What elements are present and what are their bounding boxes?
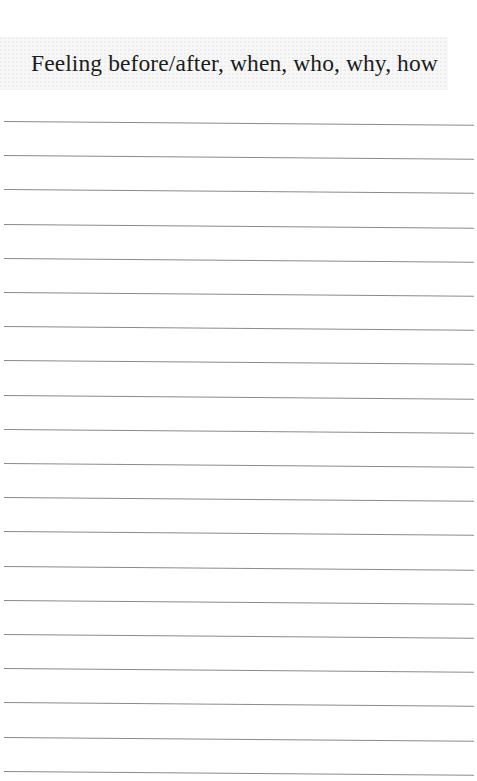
writing-line bbox=[4, 497, 474, 502]
writing-line bbox=[4, 258, 474, 263]
writing-line bbox=[4, 463, 474, 468]
writing-line bbox=[4, 429, 474, 434]
writing-line bbox=[4, 121, 474, 126]
writing-line bbox=[4, 702, 474, 707]
writing-line bbox=[4, 771, 474, 776]
writing-line bbox=[4, 155, 474, 160]
writing-line bbox=[4, 224, 474, 229]
writing-line bbox=[4, 360, 474, 365]
writing-line bbox=[4, 600, 474, 605]
writing-line bbox=[4, 292, 474, 297]
writing-line bbox=[4, 737, 474, 742]
writing-line bbox=[4, 566, 474, 571]
writing-line bbox=[4, 634, 474, 639]
writing-lines bbox=[0, 0, 477, 781]
writing-line bbox=[4, 668, 474, 673]
writing-line bbox=[4, 531, 474, 536]
writing-line bbox=[4, 395, 474, 400]
writing-line bbox=[4, 189, 474, 194]
writing-line bbox=[4, 326, 474, 331]
